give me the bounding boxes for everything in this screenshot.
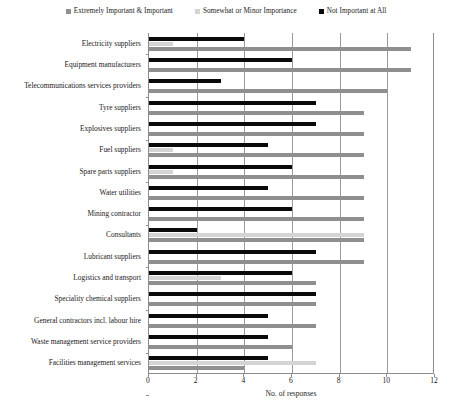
bar-not-important xyxy=(149,356,268,360)
bar-groups xyxy=(149,33,433,373)
chart-legend: Extremely Important & Important Somewhat… xyxy=(0,8,452,15)
legend-label: Not Important at All xyxy=(327,8,387,15)
bar-not-important xyxy=(149,314,268,318)
category-axis-labels: Electricity suppliersEquipment manufactu… xyxy=(0,33,145,374)
bar-group xyxy=(149,118,433,139)
category-label: Explosives suppliers xyxy=(80,125,141,132)
x-axis-title: No. of responses xyxy=(148,390,434,398)
x-axis-tick-label: 10 xyxy=(383,377,391,385)
bar-extremely-important xyxy=(149,345,292,349)
square-swatch-icon xyxy=(66,9,71,14)
category-label: Electricity suppliers xyxy=(82,40,141,47)
legend-item-not-important: Not Important at All xyxy=(319,8,387,15)
plot-area xyxy=(148,33,434,374)
bar-not-important xyxy=(149,122,316,126)
square-swatch-icon xyxy=(195,9,200,14)
bar-extremely-important xyxy=(149,111,364,115)
bar-somewhat-important xyxy=(149,233,364,237)
x-axis-tick-label: 12 xyxy=(430,377,438,385)
category-label: Water utilities xyxy=(100,189,141,196)
bar-extremely-important xyxy=(149,68,411,72)
bar-somewhat-important xyxy=(149,170,173,174)
category-label: Speciality chemical suppliers xyxy=(54,296,141,303)
bar-not-important xyxy=(149,165,292,169)
legend-label: Extremely Important & Important xyxy=(74,8,173,15)
square-swatch-icon xyxy=(319,9,324,14)
legend-item-extremely-important: Extremely Important & Important xyxy=(66,8,173,15)
bar-group xyxy=(149,33,433,54)
bar-group xyxy=(149,246,433,267)
bar-not-important xyxy=(149,250,316,254)
bar-extremely-important xyxy=(149,175,364,179)
bar-not-important xyxy=(149,186,268,190)
bar-group xyxy=(149,76,433,97)
bar-extremely-important xyxy=(149,260,364,264)
category-label: General contractors incl. labour hire xyxy=(34,317,141,324)
bar-extremely-important xyxy=(149,281,316,285)
bar-group xyxy=(149,161,433,182)
bar-not-important xyxy=(149,228,197,232)
bar-extremely-important xyxy=(149,153,364,157)
bar-group xyxy=(149,331,433,352)
category-label: Tyre suppliers xyxy=(99,104,141,111)
horizontal-bar-chart: Extremely Important & Important Somewhat… xyxy=(0,0,452,418)
bar-group xyxy=(149,267,433,288)
bar-somewhat-important xyxy=(149,42,173,46)
category-label: Fuel suppliers xyxy=(99,147,141,154)
bar-extremely-important xyxy=(149,47,411,51)
bar-not-important xyxy=(149,79,221,83)
legend-item-somewhat-important: Somewhat or Minor Importance xyxy=(195,8,297,15)
category-label: Facilities management services xyxy=(49,360,141,367)
bar-extremely-important xyxy=(149,217,364,221)
figure-caption xyxy=(6,409,446,418)
category-label: Spare parts suppliers xyxy=(79,168,141,175)
bar-group xyxy=(149,289,433,310)
category-label: Consultants xyxy=(106,232,141,239)
bar-not-important xyxy=(149,37,244,41)
bar-extremely-important xyxy=(149,89,387,93)
category-label: Lubricant suppliers xyxy=(84,253,141,260)
bar-group xyxy=(149,182,433,203)
bar-group xyxy=(149,310,433,331)
bar-group xyxy=(149,54,433,75)
bar-somewhat-important xyxy=(149,361,316,365)
category-label: Mining contractor xyxy=(87,210,141,217)
bar-extremely-important xyxy=(149,324,316,328)
x-axis-tick-labels: 024681012 xyxy=(148,377,434,389)
bar-extremely-important xyxy=(149,302,316,306)
bar-extremely-important xyxy=(149,132,364,136)
bar-group xyxy=(149,204,433,225)
bar-somewhat-important xyxy=(149,148,173,152)
bar-not-important xyxy=(149,58,292,62)
bar-group xyxy=(149,353,433,374)
bar-group xyxy=(149,225,433,246)
bar-not-important xyxy=(149,271,292,275)
bar-group xyxy=(149,97,433,118)
bar-not-important xyxy=(149,143,268,147)
bar-somewhat-important xyxy=(149,276,221,280)
bar-not-important xyxy=(149,335,268,339)
bar-extremely-important xyxy=(149,366,244,370)
category-label: Equipment manufacturers xyxy=(64,61,141,68)
category-label: Waste management service providers xyxy=(31,338,141,345)
bar-extremely-important xyxy=(149,238,364,242)
bar-extremely-important xyxy=(149,196,364,200)
bar-not-important xyxy=(149,292,316,296)
x-axis-tick-label: 4 xyxy=(241,377,245,385)
category-label: Logistics and transport xyxy=(73,274,141,281)
bar-not-important xyxy=(149,101,316,105)
x-axis-tick-label: 2 xyxy=(194,377,198,385)
x-axis-tick-label: 8 xyxy=(337,377,341,385)
category-label: Telecommunications services providers xyxy=(24,83,141,90)
bar-not-important xyxy=(149,207,292,211)
x-axis-tick-label: 6 xyxy=(289,377,293,385)
x-axis-tick-label: 0 xyxy=(146,377,150,385)
legend-label: Somewhat or Minor Importance xyxy=(203,8,297,15)
bar-group xyxy=(149,140,433,161)
